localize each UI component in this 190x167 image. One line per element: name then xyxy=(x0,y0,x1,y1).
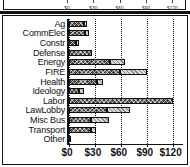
bar-row xyxy=(69,30,183,36)
bar-row xyxy=(69,40,183,46)
bar-segment-segment-a xyxy=(69,127,91,133)
bar-segment-segment-a xyxy=(69,69,120,75)
bar-row xyxy=(69,79,183,85)
x-axis-label: $30 xyxy=(85,147,102,158)
bar-row xyxy=(69,21,183,27)
bar-row xyxy=(69,117,183,123)
bar-segment-segment-b xyxy=(84,21,87,27)
bar-segment-segment-b xyxy=(76,40,79,46)
bar-row xyxy=(69,107,183,113)
bar-segment-segment-b xyxy=(110,59,126,65)
partial-chart-tick xyxy=(67,0,68,3)
bar-segment-segment-a xyxy=(69,136,71,142)
chart-container: AgCommElecConstrDefenseEnergyFIREHealthI… xyxy=(2,15,188,165)
bar-row xyxy=(69,59,183,65)
x-axis-label: $0 xyxy=(61,147,72,158)
bar-segment-segment-a xyxy=(69,107,107,113)
bar-segment-segment-b xyxy=(97,79,103,85)
plot-area xyxy=(67,19,183,145)
y-axis-category-labels: AgCommElecConstrDefenseEnergyFIREHealthI… xyxy=(5,19,65,145)
partial-chart-tick xyxy=(93,0,94,3)
partial-chart-tick xyxy=(172,0,173,3)
partial-chart-tick xyxy=(120,0,121,3)
bar-row xyxy=(69,88,183,94)
bar-segment-segment-a xyxy=(69,117,91,123)
bar-row xyxy=(69,69,183,75)
y-axis-label-other: Other xyxy=(43,135,65,144)
bar-row xyxy=(69,98,183,104)
bar-row xyxy=(69,136,183,142)
bar-segment-segment-b xyxy=(120,69,147,75)
partial-chart-tick xyxy=(146,0,147,3)
bar-segment-segment-a xyxy=(69,30,85,36)
x-axis-label: $90 xyxy=(136,147,153,158)
bar-segment-segment-a xyxy=(69,40,76,46)
x-axis-tick-labels: $0$30$60$90$120 xyxy=(67,147,183,161)
bar-segment-segment-b xyxy=(107,107,130,113)
bar-row xyxy=(69,50,183,56)
bar-segment-segment-a xyxy=(69,98,173,104)
x-axis-label: $60 xyxy=(110,147,127,158)
x-axis-label: $120 xyxy=(160,147,182,158)
bar-segment-segment-b xyxy=(85,30,88,36)
partial-chart-above: $0$30$60$90$120 xyxy=(0,0,190,11)
bar-segment-segment-a xyxy=(69,79,97,85)
bar-segment-segment-a xyxy=(69,88,79,94)
bar-segment-segment-b xyxy=(91,127,95,133)
bar-segment-segment-b xyxy=(79,88,84,94)
bar-segment-segment-a xyxy=(69,21,84,27)
bar-segment-segment-b xyxy=(91,117,108,123)
bar-segment-segment-a xyxy=(69,50,92,56)
bar-segment-segment-a xyxy=(69,59,110,65)
bar-row xyxy=(69,127,183,133)
